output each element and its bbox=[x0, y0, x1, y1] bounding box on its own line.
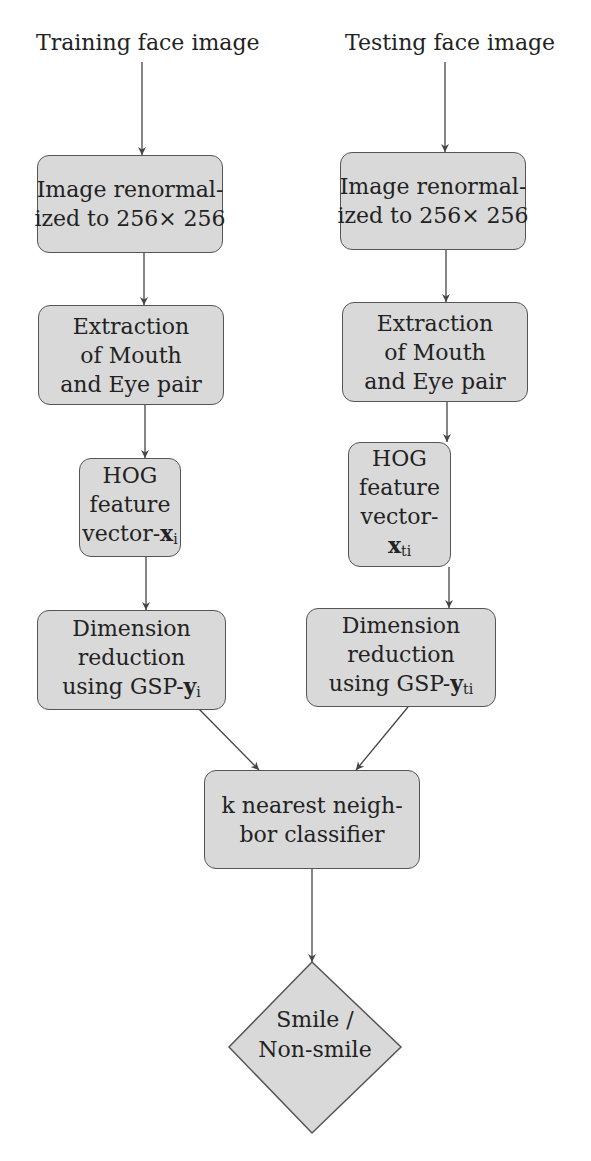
node-text: of Mouth bbox=[384, 338, 485, 367]
node-text: reduction bbox=[78, 643, 185, 672]
node-text: HOG bbox=[372, 444, 427, 473]
node-text: bor classifier bbox=[239, 820, 384, 849]
dimension-node-right: Dimension reduction using GSP-yti bbox=[306, 608, 496, 707]
node-text: Image renormal- bbox=[340, 172, 527, 201]
subscript: ti bbox=[401, 543, 411, 559]
node-text: vector-xi bbox=[82, 519, 177, 554]
node-text: Extraction bbox=[377, 309, 494, 338]
node-text: xti bbox=[388, 531, 411, 566]
var-x: x bbox=[160, 520, 173, 546]
decision-node-label: Smile / Non-smile bbox=[229, 1005, 401, 1065]
node-text: HOG bbox=[103, 461, 158, 490]
subscript: i bbox=[196, 684, 200, 700]
subscript: i bbox=[173, 531, 177, 547]
extraction-node-right: Extraction of Mouth and Eye pair bbox=[342, 302, 528, 402]
subscript: ti bbox=[463, 681, 473, 697]
arrow-dim-right-to-knn bbox=[356, 707, 408, 770]
node-text: using GSP-yti bbox=[329, 669, 473, 704]
testing-face-image-label: Testing face image bbox=[345, 30, 545, 55]
hog-node-left: HOG feature vector-xi bbox=[79, 458, 181, 557]
extraction-node-left: Extraction of Mouth and Eye pair bbox=[38, 305, 224, 405]
renormalize-node-left: Image renormal- ized to 256× 256 bbox=[37, 155, 223, 253]
node-text: feature bbox=[90, 490, 171, 519]
var-x: x bbox=[388, 532, 401, 558]
node-text: feature bbox=[359, 473, 440, 502]
node-text: and Eye pair bbox=[60, 370, 202, 399]
node-text: k nearest neigh- bbox=[221, 791, 402, 820]
arrow-dim-left-to-knn bbox=[199, 709, 259, 770]
var-y: y bbox=[184, 673, 197, 699]
knn-classifier-node: k nearest neigh- bor classifier bbox=[204, 770, 420, 869]
dimension-node-left: Dimension reduction using GSP-yi bbox=[37, 610, 226, 710]
node-text: Image renormal- bbox=[37, 175, 224, 204]
node-text: ized to 256× 256 bbox=[337, 201, 528, 230]
node-text: and Eye pair bbox=[364, 367, 506, 396]
node-text: using GSP-yi bbox=[62, 672, 201, 707]
node-text: ized to 256× 256 bbox=[34, 204, 225, 233]
node-text: Non-smile bbox=[229, 1035, 401, 1065]
hog-node-right: HOG feature vector- xti bbox=[348, 442, 451, 567]
training-face-image-label: Training face image bbox=[36, 30, 248, 55]
var-y: y bbox=[450, 670, 463, 696]
node-text: Smile / bbox=[229, 1005, 401, 1035]
node-text: vector- bbox=[361, 502, 439, 531]
node-text: of Mouth bbox=[80, 341, 181, 370]
node-text: reduction bbox=[347, 640, 454, 669]
node-text: Dimension bbox=[342, 611, 460, 640]
node-text: Dimension bbox=[72, 614, 190, 643]
renormalize-node-right: Image renormal- ized to 256× 256 bbox=[340, 152, 526, 250]
node-text: Extraction bbox=[73, 312, 190, 341]
